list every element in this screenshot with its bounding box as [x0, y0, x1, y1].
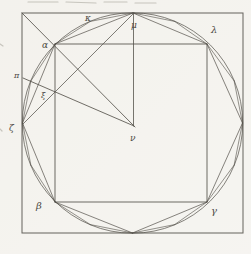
label-mu: μ	[131, 20, 137, 30]
label-beta: β	[35, 200, 42, 211]
label-gamma: γ	[211, 205, 217, 216]
label-lambda: λ	[210, 24, 217, 35]
label-nu: ν	[130, 133, 136, 143]
engraving-page: κμλαπξζνβγ	[0, 0, 251, 254]
label-kappa: κ	[84, 13, 91, 23]
label-pi: π	[13, 71, 20, 80]
label-alpha: α	[42, 40, 48, 50]
geometry-canvas: κμλαπξζνβγ	[0, 0, 251, 254]
label-xi: ξ	[41, 91, 46, 100]
